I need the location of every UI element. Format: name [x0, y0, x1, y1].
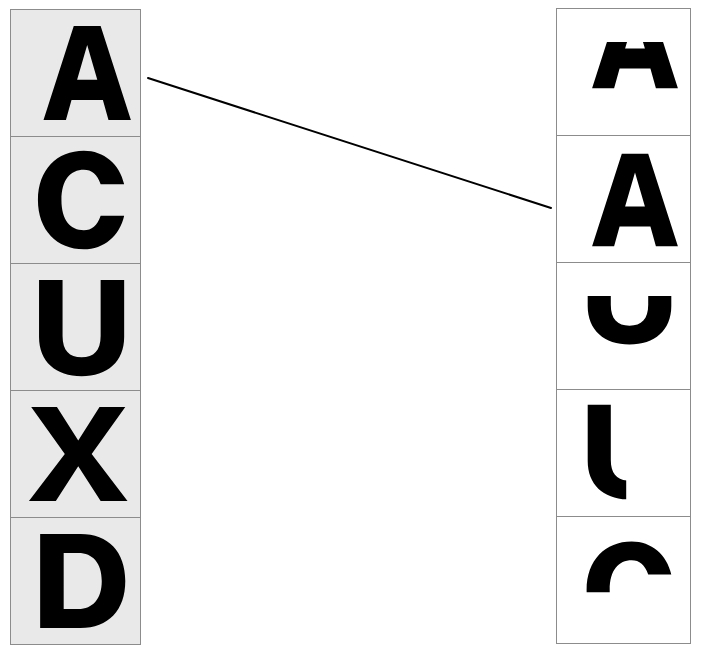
glyph-c-full	[20, 144, 132, 256]
glyph-a-full	[569, 145, 679, 255]
letter-u-left-part	[557, 390, 690, 516]
left-cell-5[interactable]	[10, 517, 141, 645]
letter-c-full	[11, 137, 140, 263]
glyph-d-full	[20, 525, 132, 637]
right-cell-2[interactable]	[556, 135, 691, 263]
left-cell-2[interactable]	[10, 136, 141, 264]
left-cell-3[interactable]	[10, 263, 141, 391]
letter-u-bottom-half	[557, 263, 690, 389]
glyph-x-full	[20, 398, 132, 510]
letter-d-full	[11, 518, 140, 644]
right-cell-4[interactable]	[556, 389, 691, 517]
right-cell-5[interactable]	[556, 516, 691, 644]
glyph-u-full	[20, 271, 132, 383]
letter-c-top-half	[557, 517, 690, 643]
letter-a-full	[557, 136, 690, 262]
left-cell-4[interactable]	[10, 390, 141, 518]
glyph-c-top-half	[569, 535, 679, 644]
left-cell-1[interactable]	[10, 9, 141, 137]
glyph-u-bottom-half	[569, 262, 679, 351]
left-letter-column	[10, 9, 141, 646]
right-letter-column	[556, 8, 691, 646]
letter-u-full	[11, 264, 140, 390]
letter-a-full	[11, 10, 140, 136]
glyph-u-left-part	[569, 396, 679, 506]
letter-a-bottom-half	[557, 9, 690, 135]
glyph-a-full	[20, 17, 132, 129]
letter-x-full	[11, 391, 140, 517]
match-connector-line	[148, 78, 551, 208]
right-cell-1[interactable]	[556, 8, 691, 136]
right-cell-3[interactable]	[556, 262, 691, 390]
task-canvas	[0, 0, 701, 659]
glyph-a-bottom-half	[569, 8, 679, 97]
